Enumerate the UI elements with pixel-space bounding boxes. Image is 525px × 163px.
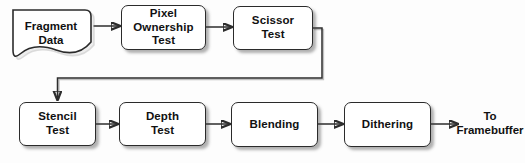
node-blending[interactable]: Blending [231, 102, 318, 147]
node-pixel-ownership-test[interactable]: Pixel Ownership Test [121, 5, 206, 50]
node-fragment-data[interactable]: Fragment Data [4, 6, 98, 64]
node-dithering-label: Dithering [362, 118, 413, 132]
node-dithering[interactable]: Dithering [344, 102, 431, 147]
node-depth-test-label: Depth Test [146, 110, 179, 137]
terminal-to-framebuffer: To Framebuffer [455, 110, 525, 137]
node-scissor-test-label: Scissor Test [252, 14, 294, 41]
node-depth-test[interactable]: Depth Test [119, 102, 206, 146]
node-scissor-test[interactable]: Scissor Test [233, 6, 313, 50]
fragment-data-shape [4, 6, 100, 68]
node-blending-label: Blending [250, 118, 300, 132]
diagram-canvas: Fragment Data Pixel Ownership Test Sciss… [0, 0, 525, 163]
node-stencil-test-label: Stencil Test [38, 110, 76, 137]
node-pixel-ownership-test-label: Pixel Ownership Test [133, 7, 193, 48]
node-stencil-test[interactable]: Stencil Test [19, 102, 96, 146]
